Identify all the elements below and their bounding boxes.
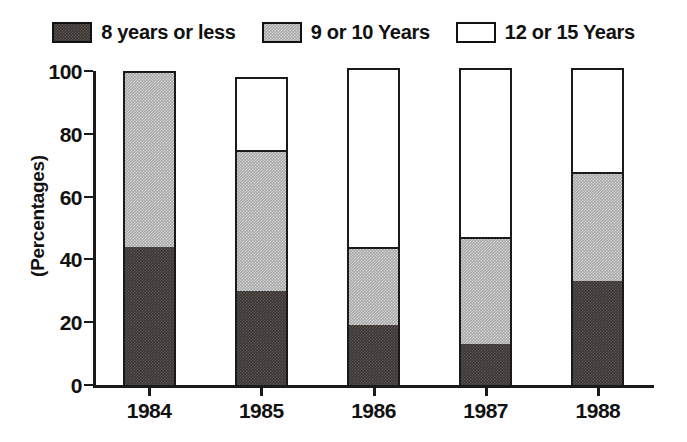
- bar-segment[interactable]: [459, 237, 512, 344]
- y-axis-tick-label: 60: [36, 186, 82, 207]
- y-axis-tick-mark: [84, 258, 93, 260]
- y-axis-tick-mark: [84, 196, 93, 198]
- legend-swatch-white-icon: [456, 22, 496, 43]
- y-axis-tick-labels: 020406080100: [30, 55, 82, 442]
- x-axis-tick-label: 1986: [329, 400, 419, 421]
- legend-swatch-gray-icon: [262, 22, 302, 43]
- legend-label-12-or-15-years: 12 or 15 Years: [505, 22, 635, 42]
- bar-stack: [123, 71, 176, 385]
- chart-plot-area: (Percentages) 020406080100 1984198519861…: [0, 55, 687, 442]
- bar-segment[interactable]: [123, 71, 176, 247]
- y-axis-tick-label: 100: [36, 61, 82, 82]
- bar-segment[interactable]: [459, 344, 512, 385]
- y-axis-tick-mark: [84, 321, 93, 323]
- bar-segment[interactable]: [571, 281, 624, 385]
- bar-stack: [571, 68, 624, 385]
- x-axis-tick-label: 1988: [553, 400, 643, 421]
- bar-segment[interactable]: [235, 77, 288, 149]
- legend-entry-12-or-15-years: 12 or 15 Years: [456, 22, 635, 43]
- bar-segment[interactable]: [459, 68, 512, 238]
- x-axis-tick-label: 1984: [104, 400, 194, 421]
- x-axis-tick-mark: [260, 385, 263, 396]
- legend-label-8-years-or-less: 8 years or less: [101, 22, 236, 42]
- y-axis-tick-mark: [84, 70, 93, 72]
- x-axis-tick-label: 1987: [441, 400, 531, 421]
- x-axis-tick-mark: [148, 385, 151, 396]
- bar-segment[interactable]: [347, 325, 400, 385]
- bar-segment[interactable]: [347, 68, 400, 247]
- legend-label-9-or-10-years: 9 or 10 Years: [311, 22, 430, 42]
- bar-stack: [235, 77, 288, 385]
- bar-segment[interactable]: [235, 150, 288, 291]
- x-axis-tick-label: 1985: [216, 400, 306, 421]
- chart-legend: 8 years or less 9 or 10 Years 12 or 15 Y…: [0, 14, 687, 50]
- legend-entry-8-years-or-less: 8 years or less: [52, 22, 236, 43]
- bar-segment[interactable]: [571, 172, 624, 282]
- bar-segment[interactable]: [571, 68, 624, 172]
- y-axis-tick-label: 20: [36, 312, 82, 333]
- bar-stack: [459, 68, 512, 385]
- y-axis-tick-label: 80: [36, 123, 82, 144]
- y-axis-tick-label: 0: [36, 375, 82, 396]
- x-axis-tick-mark: [597, 385, 600, 396]
- y-axis-tick-mark: [84, 133, 93, 135]
- bar-stack: [347, 68, 400, 385]
- x-axis-tick-mark: [485, 385, 488, 396]
- x-axis-tick-mark: [373, 385, 376, 396]
- y-axis-tick-label: 40: [36, 249, 82, 270]
- bar-series-container: [93, 55, 654, 385]
- legend-entry-9-or-10-years: 9 or 10 Years: [262, 22, 430, 43]
- bar-segment[interactable]: [123, 247, 176, 385]
- bar-segment[interactable]: [235, 291, 288, 385]
- legend-swatch-dark-icon: [52, 22, 92, 43]
- bar-segment[interactable]: [347, 247, 400, 326]
- y-axis-tick-mark: [84, 384, 93, 386]
